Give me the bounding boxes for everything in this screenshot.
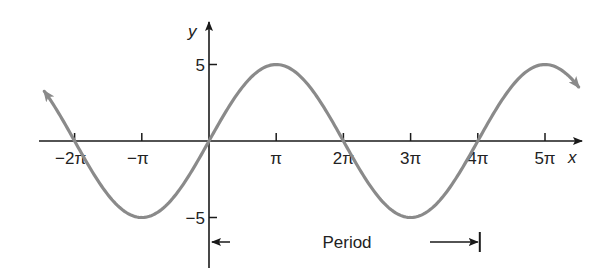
sine-graph: x y −2π−ππ2π3π4π5π 5−5 Period	[0, 0, 605, 280]
x-tick-label: 3π	[400, 149, 421, 168]
x-tick-label: π	[270, 149, 282, 168]
x-tick-label: −π	[127, 149, 149, 168]
x-tick-label: 5π	[534, 149, 555, 168]
x-axis-label: x	[567, 148, 577, 167]
period-label: Period	[322, 233, 371, 252]
y-tick-label: −5	[186, 209, 205, 228]
y-tick-label: 5	[196, 56, 205, 75]
period-annotation: Period	[212, 232, 480, 252]
y-axis-label: y	[187, 22, 198, 41]
